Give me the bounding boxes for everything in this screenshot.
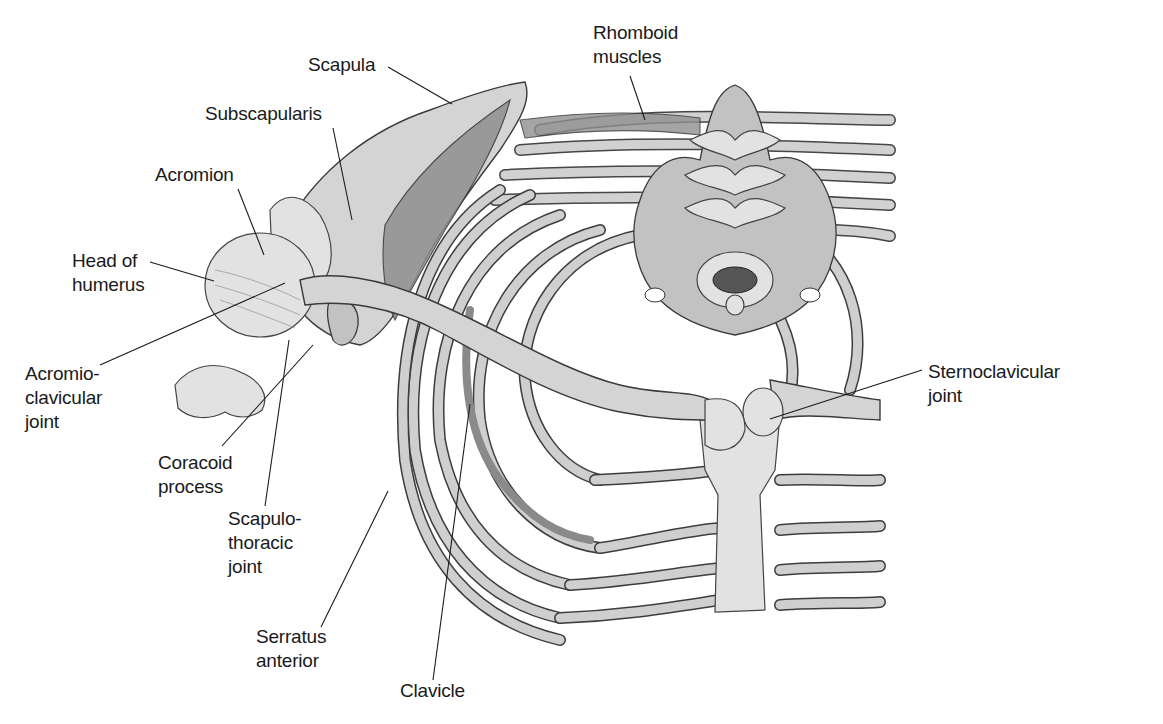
anatomy-figure: Scapula Subscapularis Acromion Head of h… [0, 0, 1163, 724]
humerus-head [205, 233, 315, 337]
label-serratus-anterior: Serratus anterior [256, 625, 326, 673]
label-subscapularis: Subscapularis [205, 102, 322, 126]
label-rhomboid-muscles: Rhomboid muscles [593, 21, 678, 69]
label-scapulothoracic-joint: Scapulo- thoracic joint [228, 507, 301, 579]
label-coracoid-process: Coracoid process [158, 451, 232, 499]
label-clavicle: Clavicle [400, 679, 465, 703]
label-head-of-humerus: Head of humerus [72, 249, 145, 297]
label-acromion: Acromion [155, 163, 234, 187]
leader-scapula [388, 67, 452, 104]
label-sternoclavicular-joint: Sternoclavicular joint [928, 360, 1060, 408]
leader-serratus [321, 491, 388, 627]
coracoid [327, 299, 358, 345]
label-acromioclavicular-joint: Acromio- clavicular joint [25, 362, 102, 434]
leader-scapulothoracic [265, 340, 289, 506]
leader-head-of-humerus [150, 262, 214, 281]
rhomboid-muscles [520, 113, 700, 138]
sternoclavicular-joint-bone [743, 388, 783, 436]
label-scapula: Scapula [308, 53, 375, 77]
